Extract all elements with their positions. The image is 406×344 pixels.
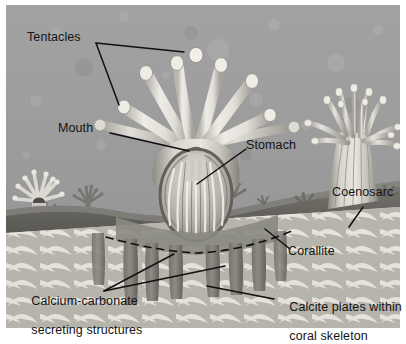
label-calcite-plates-line1: Calcite plates within bbox=[289, 300, 402, 314]
label-calcite-plates: Calcite plates within coral skeleton bbox=[275, 285, 402, 344]
label-calcium-carbonate-line1: Calcium-carbonate bbox=[31, 294, 138, 308]
label-calcite-plates-line2: coral skeleton bbox=[289, 329, 368, 343]
label-stomach: Stomach bbox=[246, 139, 296, 153]
label-calcium-carbonate-line2: secreting structures bbox=[31, 323, 142, 337]
label-tentacles: Tentacles bbox=[27, 31, 81, 45]
tentacle-tip-upper-right bbox=[189, 47, 203, 62]
label-mouth: Mouth bbox=[58, 122, 93, 136]
label-calcium-carbonate: Calcium-carbonate secreting structures bbox=[17, 279, 142, 344]
tentacle-tip-lower-left bbox=[118, 100, 131, 114]
label-corallite: Corallite bbox=[288, 245, 335, 259]
label-coenosarc: Coenosarc bbox=[332, 186, 393, 200]
septum-right bbox=[169, 245, 183, 299]
